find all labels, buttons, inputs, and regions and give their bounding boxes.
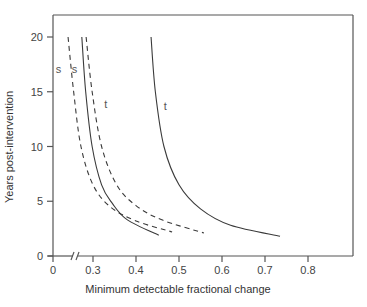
x-axis-title: Minimum detectable fractional change [85, 283, 270, 295]
curve-label: t [164, 100, 167, 112]
curves [68, 37, 280, 236]
x-tick-label: 0.7 [257, 264, 272, 276]
y-tick-label: 0 [37, 250, 43, 262]
series-line-2 [82, 37, 159, 235]
y-tick-label: 5 [37, 195, 43, 207]
x-axis-ticks: 00.30.40.50.60.70.8 [50, 256, 316, 276]
y-axis-ticks: 05101520 [31, 31, 53, 262]
x-tick-label: 0.3 [85, 264, 100, 276]
plot-frame [48, 15, 353, 260]
x-tick-label: 0 [50, 264, 56, 276]
curve-labels: sstt [56, 63, 167, 112]
curve-label: t [104, 98, 107, 110]
chart: 00.30.40.50.60.70.8 05101520 sstt Minimu… [0, 0, 367, 307]
y-tick-label: 15 [31, 86, 43, 98]
y-tick-label: 10 [31, 141, 43, 153]
curve-label: s [72, 63, 78, 75]
y-axis-title: Years post-intervention [3, 91, 15, 203]
x-tick-label: 0.4 [128, 264, 143, 276]
x-tick-label: 0.8 [300, 264, 315, 276]
axis-break-icon [71, 252, 79, 260]
series-line-4 [151, 37, 280, 236]
x-tick-label: 0.6 [214, 264, 229, 276]
y-tick-label: 20 [31, 31, 43, 43]
x-tick-label: 0.5 [171, 264, 186, 276]
curve-label: s [56, 63, 62, 75]
series-line-3 [86, 37, 204, 233]
